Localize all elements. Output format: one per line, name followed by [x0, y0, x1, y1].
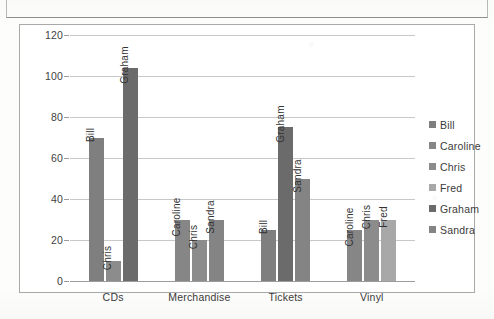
bar-label-tickets-bill: Bill — [259, 220, 269, 234]
bar-slot-cds-bill: Bill — [89, 35, 104, 281]
legend-item-chris: Chris — [429, 156, 494, 177]
legend-label-caroline: Caroline — [440, 140, 481, 152]
legend-item-bill: Bill — [429, 114, 494, 135]
bar-slot-tickets-sandra: Sandra — [295, 35, 310, 281]
category-axis: CDs Merchandise Tickets Vinyl — [70, 291, 415, 303]
gridline-0 — [70, 281, 415, 282]
legend-label-chris: Chris — [440, 161, 466, 173]
bar-label-tickets-sandra: Sandra — [293, 159, 303, 192]
y-tickmark-80 — [64, 117, 69, 118]
category-label-vinyl: Vinyl — [329, 291, 415, 303]
bar-tickets-sandra[interactable]: Sandra — [295, 179, 310, 282]
legend-item-graham: Graham — [429, 198, 494, 219]
bar-label-merchandise-chris: Chris — [189, 225, 199, 249]
y-tickmark-60 — [64, 158, 69, 159]
bar-label-tickets-graham: Graham — [276, 106, 286, 143]
bar-slot-merchandise-sandra: Sandra — [209, 35, 224, 281]
bar-slot-tickets-bill: Bill — [261, 35, 276, 281]
bar-group-cds: BillChrisGraham — [70, 35, 156, 281]
legend-label-graham: Graham — [440, 203, 479, 215]
legend-label-sandra: Sandra — [440, 224, 475, 236]
bar-slot-vinyl-chris: Chris — [364, 35, 379, 281]
bar-vinyl-caroline[interactable]: Caroline — [347, 230, 362, 281]
y-axis-label-100: 100 — [45, 70, 63, 82]
legend-label-fred: Fred — [440, 182, 462, 194]
y-tickmark-100 — [64, 76, 69, 77]
y-axis-label-40: 40 — [51, 193, 63, 205]
bar-slot-cds-graham: Graham — [123, 35, 138, 281]
bar-label-vinyl-caroline: Caroline — [345, 207, 355, 246]
legend-swatch-caroline-icon — [429, 142, 436, 149]
plot-area: 020406080100120 BillChrisGrahamCarolineC… — [70, 35, 415, 281]
bar-group-merchandise: CarolineChrisSandra — [156, 35, 242, 281]
bar-merchandise-sandra[interactable]: Sandra — [209, 220, 224, 282]
bar-slot-vinyl-caroline: Caroline — [347, 35, 362, 281]
bar-merchandise-chris[interactable]: Chris — [192, 240, 207, 281]
legend-swatch-sandra-icon — [429, 226, 436, 233]
bar-slot-tickets-graham: Graham — [278, 35, 293, 281]
chart-legend: Bill Caroline Chris Fred Graham Sandra — [429, 114, 494, 240]
bar-groups: BillChrisGrahamCarolineChrisSandraBillGr… — [70, 35, 415, 281]
y-tickmark-120 — [64, 35, 69, 36]
bar-group-vinyl: CarolineChrisFred — [329, 35, 415, 281]
y-axis-label-0: 0 — [57, 275, 63, 287]
legend-label-bill: Bill — [440, 119, 455, 131]
bar-label-merchandise-caroline: Caroline — [172, 197, 182, 236]
y-tickmark-40 — [64, 199, 69, 200]
bar-group-tickets: BillGrahamSandra — [243, 35, 329, 281]
legend-item-fred: Fred — [429, 177, 494, 198]
legend-swatch-graham-icon — [429, 205, 436, 212]
category-label-merchandise: Merchandise — [156, 291, 242, 303]
bar-label-vinyl-chris: Chris — [362, 204, 372, 228]
bar-cds-graham[interactable]: Graham — [123, 68, 138, 281]
bar-label-vinyl-fred: Fred — [379, 206, 389, 227]
y-axis-label-80: 80 — [51, 111, 63, 123]
scanned-page: 020406080100120 BillChrisGrahamCarolineC… — [0, 0, 494, 319]
bar-tickets-bill[interactable]: Bill — [261, 230, 276, 281]
legend-swatch-bill-icon — [429, 121, 436, 128]
bar-cds-chris[interactable]: Chris — [106, 261, 121, 282]
y-tickmark-20 — [64, 240, 69, 241]
legend-swatch-chris-icon — [429, 163, 436, 170]
y-axis-label-60: 60 — [51, 152, 63, 164]
category-label-tickets: Tickets — [243, 291, 329, 303]
bar-label-cds-chris: Chris — [103, 245, 113, 269]
chart-frame: 020406080100120 BillChrisGrahamCarolineC… — [19, 24, 475, 293]
y-axis-label-120: 120 — [45, 29, 63, 41]
bar-vinyl-chris[interactable]: Chris — [364, 220, 379, 282]
legend-item-sandra: Sandra — [429, 219, 494, 240]
bar-label-cds-bill: Bill — [86, 127, 96, 141]
bar-label-cds-graham: Graham — [120, 46, 130, 83]
legend-item-caroline: Caroline — [429, 135, 494, 156]
bar-label-merchandise-sandra: Sandra — [206, 200, 216, 233]
bar-slot-vinyl-fred: Fred — [381, 35, 396, 281]
category-label-cds: CDs — [70, 291, 156, 303]
bar-vinyl-fred[interactable]: Fred — [381, 220, 396, 282]
y-axis-label-20: 20 — [51, 234, 63, 246]
y-tickmark-0 — [64, 281, 69, 282]
bar-slot-merchandise-chris: Chris — [192, 35, 207, 281]
legend-swatch-fred-icon — [429, 184, 436, 191]
bar-tickets-graham[interactable]: Graham — [278, 127, 293, 281]
document-top-rule — [6, 0, 488, 18]
